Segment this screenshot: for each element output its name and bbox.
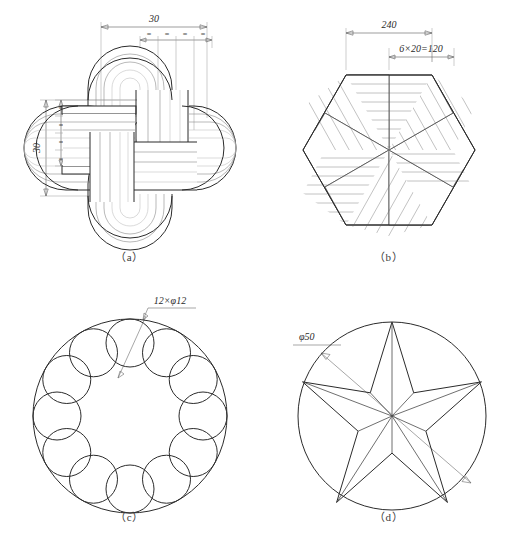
equal-mark-left-4: =: [58, 155, 63, 164]
dim-label-12-phi12: 12×φ12: [154, 295, 186, 306]
celtic-knot-graphic: [24, 46, 236, 250]
panel-c-circle-of-circles: 12×φ12: [0, 268, 259, 535]
hole-circle: [70, 329, 118, 377]
hole-circles-ring: [33, 319, 227, 513]
hole-circle: [43, 429, 91, 477]
panel-b-svg: 240 6×20=120: [259, 0, 518, 267]
caption-b: （b）: [259, 248, 518, 264]
hole-circle: [106, 319, 154, 367]
dim-overall-width: 30: [101, 13, 207, 29]
equal-mark-3: =: [182, 30, 187, 39]
panel-c-svg: 12×φ12: [0, 268, 259, 535]
knot-crossing-lower-left: [90, 132, 134, 202]
hole-circle: [33, 392, 81, 440]
panel-a-celtic-knot: 30 = = = =: [0, 0, 259, 267]
dim-label-phi50: φ50: [299, 331, 315, 342]
panel-b-hatched-hexagon: 240 6×20=120: [259, 0, 518, 267]
dim-divided-span: 6×20=120: [389, 43, 454, 70]
hexagon-rhombus-4: [347, 112, 501, 258]
caption-d: （d）: [259, 508, 518, 524]
hole-circle: [43, 356, 91, 404]
hole-circle: [169, 429, 217, 477]
equal-mark-4: =: [200, 30, 205, 39]
panel-d-five-pointed-star: φ50: [259, 268, 518, 535]
hole-circle: [143, 455, 191, 503]
panel-d-svg: φ50: [259, 268, 518, 535]
knot-crossing-lower-right: [125, 142, 197, 194]
drawing-sheet: 30 = = = =: [0, 0, 518, 535]
equal-mark-1: =: [146, 30, 151, 39]
hole-circle: [143, 329, 191, 377]
dim-label-width-a: 30: [148, 13, 159, 24]
caption-c: （c）: [0, 508, 259, 524]
panel-a-svg: 30 = = = =: [0, 0, 259, 267]
equal-mark-left-2: =: [58, 121, 63, 130]
equal-mark-left-3: =: [58, 138, 63, 147]
caption-a: （a）: [0, 248, 259, 264]
outer-circle: [33, 319, 227, 513]
hole-circle: [70, 455, 118, 503]
star-facet-lines: [303, 322, 482, 502]
hole-circle: [106, 465, 154, 513]
dim-label-240: 240: [382, 19, 397, 30]
hole-circle: [179, 392, 227, 440]
dim-label-6x20: 6×20=120: [399, 43, 443, 54]
hole-circle: [169, 356, 217, 404]
equal-mark-2: =: [164, 30, 169, 39]
